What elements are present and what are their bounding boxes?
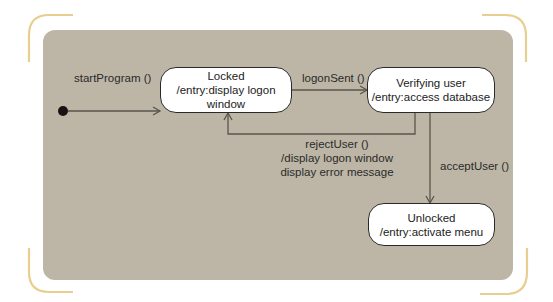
- state-name: Locked: [207, 69, 244, 83]
- bracket-bottom-left: [29, 248, 73, 292]
- state-entry-action: /entry:access database: [372, 90, 490, 104]
- state-entry-action: /entry:display logon window: [161, 83, 291, 111]
- state-name: Unlocked: [408, 211, 456, 225]
- reject-user-event: rejectUser (): [262, 137, 412, 151]
- label-reject-user: rejectUser () /display logon window disp…: [262, 137, 412, 179]
- label-logon-sent: logonSent (): [302, 71, 365, 85]
- reject-user-action-1: /display logon window: [262, 151, 412, 165]
- state-entry-action: /entry:activate menu: [380, 225, 484, 239]
- reject-user-action-2: display error message: [262, 165, 412, 179]
- label-start-program: startProgram (): [74, 71, 151, 85]
- state-name: Verifying user: [396, 76, 466, 90]
- state-unlocked: Unlocked /entry:activate menu: [368, 203, 495, 246]
- bracket-bottom-right: [480, 248, 527, 294]
- initial-state-dot: [58, 106, 68, 116]
- transition-reject-user-line: [228, 113, 415, 134]
- bracket-top-right: [482, 15, 526, 62]
- label-accept-user: acceptUser (): [440, 159, 509, 173]
- bracket-top-left: [29, 15, 73, 62]
- state-locked: Locked /entry:display logon window: [160, 67, 292, 113]
- state-verifying-user: Verifying user /entry:access database: [367, 67, 495, 113]
